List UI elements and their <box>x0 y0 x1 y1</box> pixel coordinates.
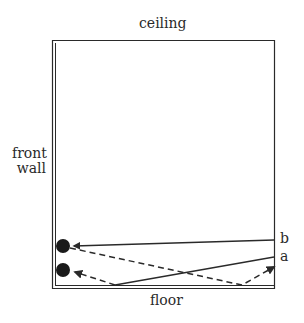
lower-dot <box>56 263 70 277</box>
front-wall-label-line1: front <box>12 146 46 161</box>
path-a-reflection <box>75 272 115 285</box>
front-wall-label-line2: wall <box>12 161 46 176</box>
path-b-direct <box>74 240 274 246</box>
ceiling-label: ceiling <box>139 16 187 31</box>
upper-dot <box>56 239 70 253</box>
path-a-label: a <box>280 249 288 264</box>
floor-label: floor <box>150 293 183 308</box>
path-b-reflection <box>70 248 274 285</box>
path-b-label: b <box>280 231 289 246</box>
